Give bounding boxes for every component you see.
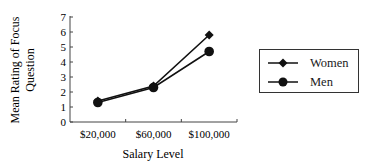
circle-marker-icon: [266, 74, 300, 90]
legend-item-women: Women: [266, 55, 349, 71]
y-tick-label: 7: [61, 11, 67, 23]
legend-item-men: Men: [266, 74, 333, 90]
series-line-men: [98, 52, 209, 103]
circle-marker: [149, 83, 159, 93]
diamond-marker-icon: [266, 55, 300, 71]
legend-label-women: Women: [310, 56, 349, 71]
x-axis-title: Salary Level: [123, 147, 185, 161]
x-tick-label: $100,000: [189, 128, 231, 140]
y-axis: 01234567: [61, 11, 74, 128]
circle-marker: [204, 47, 214, 57]
y-tick-label: 0: [61, 116, 67, 128]
legend-label-men: Men: [310, 75, 333, 90]
y-axis-title-line2: Question: [23, 48, 37, 91]
series-lines: [93, 31, 214, 108]
y-axis-title-line1: Mean Rating of Focus: [8, 16, 22, 123]
x-tick-label: $60,000: [136, 128, 172, 140]
y-tick-label: 3: [61, 71, 67, 83]
y-tick-label: 1: [61, 101, 67, 113]
y-tick-label: 5: [61, 41, 67, 53]
legend: Women Men: [259, 49, 359, 93]
circle-marker: [93, 98, 103, 108]
y-tick-label: 6: [61, 26, 67, 38]
y-tick-label: 4: [61, 56, 67, 68]
y-tick-label: 2: [61, 86, 67, 98]
x-axis: $20,000$60,000$100,000: [70, 119, 237, 140]
x-tick-label: $20,000: [80, 128, 116, 140]
